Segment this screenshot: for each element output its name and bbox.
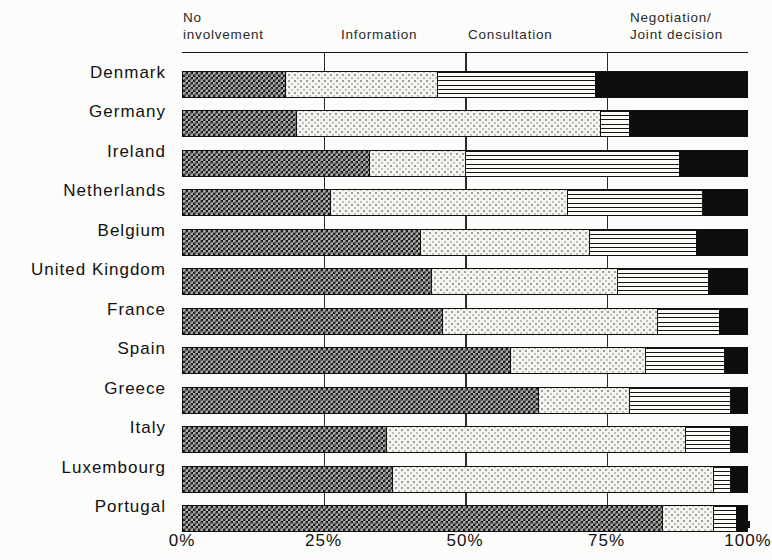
country-label: Italy [0, 414, 166, 441]
bar-segment-negotiation-joint-decision [595, 72, 747, 97]
bar-row [182, 71, 748, 98]
bar-segment-consultation [645, 348, 724, 373]
country-label: Ireland [0, 138, 166, 165]
bar-segment-information [296, 111, 601, 136]
legend-label-line: No [183, 9, 264, 26]
bar-segment-negotiation-joint-decision [679, 151, 747, 176]
country-label: Denmark [0, 59, 166, 86]
country-label: United Kingdom [0, 256, 166, 283]
bar-segment-negotiation-joint-decision [730, 388, 747, 413]
country-label: Spain [0, 335, 166, 362]
bar-row [182, 505, 748, 532]
bar-segment-information [442, 309, 656, 334]
bar-segment-information [330, 190, 567, 215]
bar-row [182, 229, 748, 256]
country-label: Germany [0, 98, 166, 125]
country-label: France [0, 296, 166, 323]
bar-segment-negotiation-joint-decision [724, 348, 747, 373]
legend-label-consultation: Consultation [468, 26, 553, 43]
legend-label-line: Negotiation/ [630, 9, 723, 26]
bar-segment-no-involvement [183, 230, 420, 255]
bar-segment-negotiation-joint-decision [629, 111, 747, 136]
country-label: Greece [0, 375, 166, 402]
bar-row [182, 347, 748, 374]
country-label: Portugal [0, 493, 166, 520]
bar-segment-no-involvement [183, 269, 431, 294]
bar-segment-consultation [685, 427, 730, 452]
country-labels: DenmarkGermanyIrelandNetherlandsBelgiumU… [0, 52, 166, 520]
bar-segment-no-involvement [183, 467, 392, 492]
bar-segment-information [420, 230, 589, 255]
bar-segment-consultation [629, 388, 731, 413]
bar-row [182, 268, 748, 295]
legend-label-line: involvement [183, 26, 264, 43]
x-axis-tick-label: 50% [446, 531, 483, 551]
bar-row [182, 308, 748, 335]
bar-segment-negotiation-joint-decision [708, 269, 747, 294]
bar-segment-no-involvement [183, 111, 296, 136]
x-axis-tick-label: 25% [305, 531, 342, 551]
bar-segment-no-involvement [183, 427, 386, 452]
x-axis-tick-label: 100% [724, 531, 771, 551]
bar-segment-information [662, 506, 713, 531]
x-axis-tick-label: 0% [169, 531, 196, 551]
legend-label-negotiation-joint-decision: Negotiation/ Joint decision [630, 9, 723, 43]
bar-segment-negotiation-joint-decision [736, 506, 747, 531]
bar-segment-no-involvement [183, 309, 442, 334]
legend-label-line: Joint decision [630, 26, 723, 43]
bar-segment-negotiation-joint-decision [702, 190, 747, 215]
country-label: Belgium [0, 217, 166, 244]
bar-segment-consultation [465, 151, 679, 176]
bar-segment-consultation [567, 190, 702, 215]
bar-row [182, 189, 748, 216]
bar-segment-information [285, 72, 437, 97]
bar-segment-information [369, 151, 465, 176]
country-label: Netherlands [0, 177, 166, 204]
bar-segment-negotiation-joint-decision [719, 309, 747, 334]
bar-segment-negotiation-joint-decision [730, 467, 747, 492]
x-axis-labels: 0%25%50%75%100% [0, 531, 772, 553]
bar-row [182, 466, 748, 493]
bar-segment-negotiation-joint-decision [730, 427, 747, 452]
bar-segment-information [431, 269, 617, 294]
bar-segment-information [386, 427, 685, 452]
bar-segment-no-involvement [183, 348, 510, 373]
x-axis-tick-label: 75% [588, 531, 625, 551]
bar-segment-consultation [713, 506, 736, 531]
bar-row [182, 426, 748, 453]
bar-segment-no-involvement [183, 388, 538, 413]
bar-segment-consultation [657, 309, 719, 334]
x-axis-tick [748, 521, 750, 528]
legend-label-line: Information [341, 26, 417, 43]
bar-segment-no-involvement [183, 506, 662, 531]
bar-segment-negotiation-joint-decision [696, 230, 747, 255]
bar-segment-no-involvement [183, 72, 285, 97]
bar-segment-consultation [600, 111, 628, 136]
bar-segment-consultation [617, 269, 707, 294]
bar-row [182, 110, 748, 137]
bar-segment-information [538, 388, 628, 413]
legend-label-information: Information [341, 26, 417, 43]
plot-area [182, 52, 748, 519]
bar-segment-consultation [589, 230, 696, 255]
bar-segment-consultation [713, 467, 730, 492]
stacked-bar-chart: No involvement Information Consultation … [0, 0, 772, 560]
bar-row [182, 150, 748, 177]
bar-row [182, 387, 748, 414]
legend-label-line: Consultation [468, 26, 553, 43]
bar-segment-information [510, 348, 645, 373]
bar-segment-consultation [437, 72, 595, 97]
bar-segment-no-involvement [183, 190, 330, 215]
legend-label-no-involvement: No involvement [183, 9, 264, 43]
bar-segment-information [392, 467, 713, 492]
bar-segment-no-involvement [183, 151, 369, 176]
country-label: Luxembourg [0, 454, 166, 481]
